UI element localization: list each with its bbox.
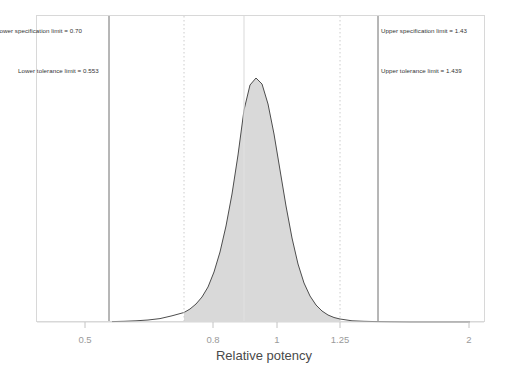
upper-specification-limit-label: Upper specification limit = 1.43: [381, 27, 467, 34]
lower-specification-limit-label: Lower specification limit = 0.70: [0, 27, 82, 34]
x-tick-label-4: 2: [466, 334, 471, 345]
x-tick-label-2: 1: [274, 334, 279, 345]
x-tick-label-1: 0.8: [206, 334, 219, 345]
density-chart-figure: Lower specification limit = 0.70 Lower t…: [0, 0, 528, 373]
x-tick-label-0: 0.5: [78, 334, 91, 345]
x-axis-title: Relative potency: [0, 348, 528, 363]
upper-tolerance-limit-label: Upper tolerance limit = 1.439: [381, 67, 462, 74]
plot-area: [36, 15, 485, 322]
x-tick-label-3: 1.25: [331, 334, 350, 345]
lower-tolerance-limit-label: Lower tolerance limit = 0.553: [18, 67, 99, 74]
